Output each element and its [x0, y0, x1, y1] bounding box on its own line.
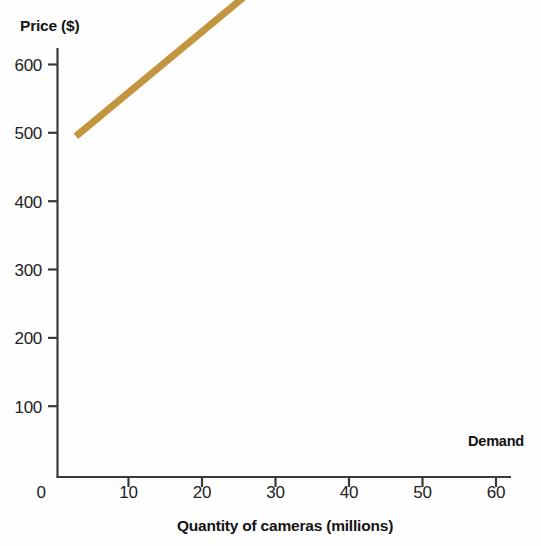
y-tick-label-300: 300	[15, 261, 42, 280]
y-tick-label-500: 500	[15, 124, 42, 143]
chart-background	[0, 0, 541, 546]
x-tick-label-50: 50	[413, 483, 431, 502]
demand-curve-chart: Price ($) 600 500 400 300 200 100	[0, 0, 541, 546]
y-tick-label-400: 400	[15, 193, 42, 212]
x-tick-label-60: 60	[487, 483, 505, 502]
y-tick-label-600: 600	[15, 56, 42, 75]
x-tick-label-30: 30	[266, 483, 284, 502]
x-tick-label-20: 20	[193, 483, 211, 502]
y-axis-title: Price ($)	[20, 17, 79, 34]
x-tick-label-0: 0	[36, 483, 45, 502]
y-tick-label-200: 200	[15, 329, 42, 348]
x-tick-label-10: 10	[119, 483, 137, 502]
x-tick-label-40: 40	[340, 483, 358, 502]
x-axis-title: Quantity of cameras (millions)	[177, 517, 393, 534]
y-tick-label-100: 100	[15, 398, 42, 417]
demand-series-label: Demand	[468, 433, 524, 449]
chart-canvas: Price ($) 600 500 400 300 200 100	[0, 0, 541, 546]
